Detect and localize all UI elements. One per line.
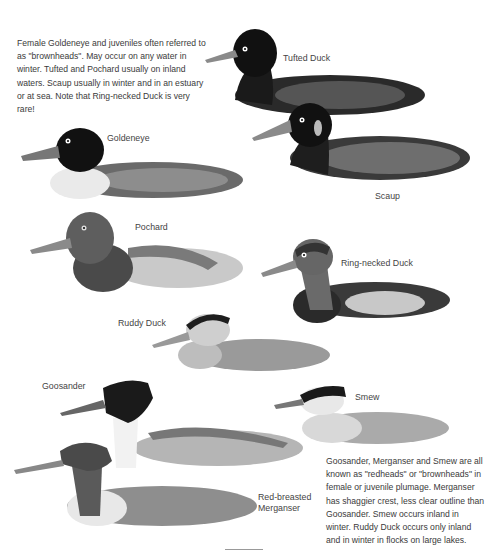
red-breasted-merganser-label-line-1: Red-breasted xyxy=(258,492,311,502)
bottom-rule xyxy=(225,549,263,550)
ruddy-duck-label: Ruddy Duck xyxy=(118,318,166,328)
bottom-note: Goosander, Merganser and Smew are all kn… xyxy=(326,455,486,547)
scaup-label: Scaup xyxy=(375,191,400,201)
smew-label: Smew xyxy=(355,392,379,402)
scaup-illustration xyxy=(250,100,475,185)
pochard-label: Pochard xyxy=(135,222,168,232)
goldeneye-label: Goldeneye xyxy=(107,133,150,143)
tufted-duck-label: Tufted Duck xyxy=(283,53,330,63)
red-breasted-merganser-label-line-2: Merganser xyxy=(258,503,300,513)
ring-necked-duck-label: Ring-necked Duck xyxy=(341,258,413,268)
red-breasted-merganser-label: Red-breasted Merganser xyxy=(258,492,311,514)
red-breasted-merganser-illustration xyxy=(12,436,272,531)
intro-note: Female Goldeneye and juveniles often ref… xyxy=(17,37,207,116)
ruddy-duck-illustration xyxy=(150,310,335,375)
